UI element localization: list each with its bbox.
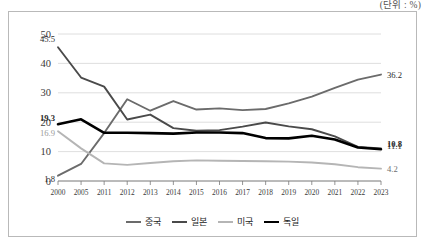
x-axis-tick-label: 2016 [212,188,227,197]
x-axis-tick-label: 2012 [120,188,135,197]
legend-label: 독일 [283,215,299,228]
x-axis-tick-label: 2021 [327,188,342,197]
line-chart-plot: 0102030405020002005201120122013201420152… [9,12,418,238]
x-axis-tick-label: 2022 [351,188,366,197]
legend-swatch-icon [172,221,187,223]
series-start-label-미국: 16.9 [40,128,55,138]
x-axis-tick-label: 2020 [304,188,319,197]
series-end-label-미국: 4.2 [387,164,398,174]
x-axis-tick-label: 2005 [74,188,89,197]
legend-label: 미국 [237,215,253,228]
y-axis-tick-label: 30 [41,87,52,98]
x-axis-tick-label: 2015 [189,188,204,197]
legend-label: 일본 [191,215,207,228]
series-end-label-중국: 36.2 [387,70,402,80]
series-end-label-독일: 10.8 [387,139,403,149]
legend-swatch-icon [264,221,279,223]
series-line-독일 [58,119,381,149]
series-start-label-독일: 19.3 [40,113,55,123]
y-axis-tick-label: 10 [41,146,52,157]
x-axis-tick-label: 2014 [166,188,181,197]
x-axis-tick-label: 2018 [258,188,273,197]
legend-item-미국[interactable]: 미국 [218,215,253,228]
series-start-label-중국: 1.8 [44,174,55,184]
chart-frame: 0102030405020002005201120122013201420152… [8,11,417,237]
x-axis-tick-label: 2000 [51,188,66,197]
legend-item-일본[interactable]: 일본 [172,215,207,228]
chart-legend: 중국일본미국독일 [9,215,416,228]
series-start-label-일본: 45.5 [40,34,55,44]
legend-item-독일[interactable]: 독일 [264,215,299,228]
legend-label: 중국 [145,215,161,228]
series-line-미국 [58,131,381,168]
x-axis-tick-label: 2017 [235,188,250,197]
legend-item-중국[interactable]: 중국 [126,215,161,228]
x-axis-tick-label: 2023 [374,188,389,197]
x-axis-tick-label: 2011 [97,188,112,197]
x-axis-tick-label: 2019 [281,188,296,197]
x-axis-tick-label: 2013 [143,188,158,197]
unit-note: (단위 : %) [380,0,421,11]
chart-svg: 0102030405020002005201120122013201420152… [9,12,418,238]
legend-swatch-icon [218,221,233,223]
legend-swatch-icon [126,221,141,223]
y-axis-tick-label: 40 [41,58,52,69]
